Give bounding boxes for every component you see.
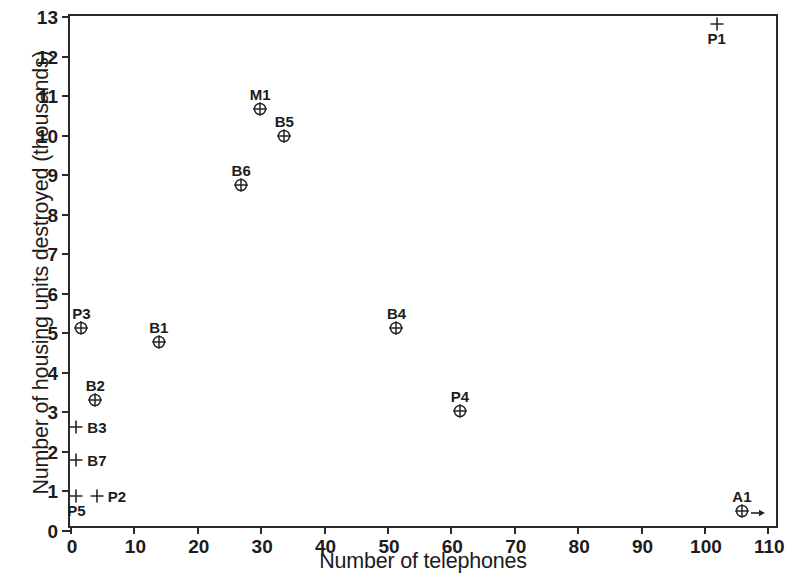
y-tick-label: 1 [47, 481, 58, 503]
y-tick: 0 [62, 530, 70, 532]
circle-plus-marker-icon [234, 178, 249, 193]
y-tick: 9 [62, 174, 70, 176]
y-tick-label: 3 [47, 402, 58, 424]
x-tick: 40 [324, 526, 326, 534]
data-point-label: B4 [387, 306, 406, 321]
x-tick: 0 [70, 526, 72, 534]
off-scale-arrow-icon [751, 505, 765, 523]
y-tick: 8 [62, 214, 70, 216]
data-point-label: B5 [275, 114, 294, 129]
data-point-label: P4 [451, 389, 469, 404]
data-point-label: B1 [149, 320, 168, 335]
data-point-label: M1 [250, 87, 271, 102]
x-tick-label: 80 [569, 536, 590, 558]
x-tick-label: 10 [125, 536, 146, 558]
y-tick-label: 13 [37, 7, 58, 29]
y-tick-label: 9 [47, 165, 58, 187]
data-point-label: P3 [72, 306, 90, 321]
y-tick: 12 [62, 56, 70, 58]
plus-marker-icon [69, 452, 84, 467]
data-point-label: A1 [732, 489, 751, 504]
data-point-label: P5 [67, 503, 85, 518]
x-tick-label: 70 [505, 536, 526, 558]
x-tick-label: 30 [252, 536, 273, 558]
x-tick-label: 20 [188, 536, 209, 558]
data-point-label: B7 [87, 453, 106, 468]
data-point-label: P2 [108, 489, 126, 504]
y-tick: 4 [62, 372, 70, 374]
y-tick: 10 [62, 135, 70, 137]
x-tick: 110 [767, 526, 769, 534]
y-tick-label: 10 [37, 126, 58, 148]
circle-plus-marker-icon [452, 404, 467, 419]
x-tick-label: 0 [67, 536, 78, 558]
data-point-label: P1 [707, 31, 725, 46]
data-point-label: B6 [232, 163, 251, 178]
x-tick: 30 [260, 526, 262, 534]
y-tick-label: 2 [47, 442, 58, 464]
circle-plus-marker-icon [253, 101, 268, 116]
x-tick-label: 40 [315, 536, 336, 558]
x-tick: 10 [133, 526, 135, 534]
y-tick-label: 12 [37, 47, 58, 69]
x-tick: 70 [514, 526, 516, 534]
circle-plus-marker-icon [74, 321, 89, 336]
circle-plus-marker-icon [389, 320, 404, 335]
y-tick-label: 0 [47, 521, 58, 543]
y-tick: 5 [62, 332, 70, 334]
y-tick-label: 5 [47, 323, 58, 345]
plus-marker-icon [69, 420, 84, 435]
plot-area: 012345678910111213 010203040506070809010… [68, 14, 778, 528]
data-point-label: B3 [87, 420, 106, 435]
circle-plus-marker-icon [88, 392, 103, 407]
x-tick: 90 [641, 526, 643, 534]
x-tick-label: 110 [754, 536, 785, 558]
x-tick: 50 [387, 526, 389, 534]
y-tick: 6 [62, 293, 70, 295]
x-tick-label: 50 [378, 536, 399, 558]
y-tick-label: 8 [47, 205, 58, 227]
data-point-label: B2 [86, 378, 105, 393]
y-tick: 11 [62, 95, 70, 97]
x-tick-label: 100 [690, 536, 722, 558]
scatter-plot-figure: Number of housing units destroyed (thous… [0, 0, 796, 580]
y-tick-label: 11 [38, 86, 58, 108]
x-tick: 20 [197, 526, 199, 534]
y-tick-label: 4 [47, 363, 58, 385]
circle-plus-marker-icon [734, 504, 749, 519]
x-tick: 100 [704, 526, 706, 534]
y-tick-label: 6 [47, 284, 58, 306]
x-tick-label: 90 [632, 536, 653, 558]
x-tick: 60 [450, 526, 452, 534]
x-axis-title: Number of telephones [68, 549, 778, 574]
y-tick-label: 7 [47, 244, 58, 266]
y-tick: 7 [62, 253, 70, 255]
y-tick: 13 [62, 16, 70, 18]
plus-marker-icon [89, 489, 104, 504]
x-tick-label: 60 [442, 536, 463, 558]
circle-plus-marker-icon [151, 335, 166, 350]
x-tick: 80 [577, 526, 579, 534]
y-axis-title: Number of housing units destroyed (thous… [29, 0, 54, 553]
y-tick: 3 [62, 411, 70, 413]
circle-plus-marker-icon [277, 128, 292, 143]
